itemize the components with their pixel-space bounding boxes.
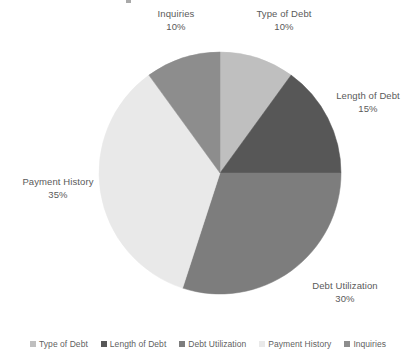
clipped-title-remnant xyxy=(126,0,131,3)
legend-label-inquiries: Inquiries xyxy=(353,339,386,349)
data-label-payment-history: Payment History 35% xyxy=(6,176,110,201)
data-label-inquiries-name: Inquiries xyxy=(124,8,228,21)
legend-swatch-debt-utilization xyxy=(179,341,185,347)
data-label-inquiries-value: 10% xyxy=(124,21,228,34)
legend-item-payment-history[interactable]: Payment History xyxy=(259,339,331,349)
legend-swatch-type-of-debt xyxy=(30,341,36,347)
data-label-inquiries: Inquiries 10% xyxy=(124,8,228,33)
data-label-type-of-debt: Type of Debt 10% xyxy=(232,8,336,33)
legend-label-length-of-debt: Length of Debt xyxy=(110,339,166,349)
data-label-payment-history-name: Payment History xyxy=(6,176,110,189)
legend-item-debt-utilization[interactable]: Debt Utilization xyxy=(179,339,246,349)
data-label-type-of-debt-value: 10% xyxy=(232,21,336,34)
data-label-length-of-debt-name: Length of Debt xyxy=(322,90,414,103)
legend-item-type-of-debt[interactable]: Type of Debt xyxy=(30,339,88,349)
legend-label-payment-history: Payment History xyxy=(268,339,331,349)
legend-item-inquiries[interactable]: Inquiries xyxy=(344,339,386,349)
pie-chart-figure: Inquiries 10% Type of Debt 10% Length of… xyxy=(0,0,416,364)
legend-swatch-inquiries xyxy=(344,341,350,347)
legend-label-type-of-debt: Type of Debt xyxy=(39,339,88,349)
data-label-debt-utilization-name: Debt Utilization xyxy=(292,280,398,293)
data-label-length-of-debt-value: 15% xyxy=(322,103,414,116)
data-label-payment-history-value: 35% xyxy=(6,189,110,202)
legend-item-length-of-debt[interactable]: Length of Debt xyxy=(101,339,166,349)
data-label-debt-utilization: Debt Utilization 30% xyxy=(292,280,398,305)
data-label-type-of-debt-name: Type of Debt xyxy=(232,8,336,21)
legend-swatch-payment-history xyxy=(259,341,265,347)
legend-label-debt-utilization: Debt Utilization xyxy=(188,339,246,349)
data-label-length-of-debt: Length of Debt 15% xyxy=(322,90,414,115)
chart-legend: Type of DebtLength of DebtDebt Utilizati… xyxy=(0,336,416,352)
data-label-debt-utilization-value: 30% xyxy=(292,293,398,306)
legend-swatch-length-of-debt xyxy=(101,341,107,347)
